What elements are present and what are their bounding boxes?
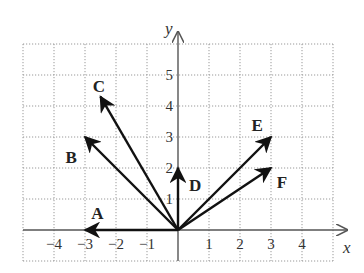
vector-label-a: A <box>91 204 104 223</box>
x-tick-label: −3 <box>77 236 93 252</box>
x-tick-label: 1 <box>205 236 213 252</box>
vector-label-b: B <box>65 148 76 167</box>
y-tick-label: 4 <box>166 98 174 114</box>
x-axis-label: x <box>342 238 351 257</box>
x-tick-label: 4 <box>298 236 306 252</box>
x-tick-label: −2 <box>108 236 124 252</box>
x-tick-label: −4 <box>46 236 62 252</box>
y-axis-label: y <box>163 19 173 38</box>
vector-label-f: F <box>277 173 287 192</box>
vector-diagram: xy −4−3−2−1123412345 ABCDEF x y <box>0 0 364 273</box>
y-tick-label: 3 <box>166 129 174 145</box>
y-tick-label: 5 <box>166 67 174 83</box>
vectors: ABCDEF <box>65 77 287 230</box>
x-tick-label: −1 <box>139 236 155 252</box>
y-tick-label: 2 <box>166 160 174 176</box>
coordinate-plane: xy −4−3−2−1123412345 ABCDEF <box>0 0 364 273</box>
vector-label-d: D <box>189 176 201 195</box>
x-tick-label: 2 <box>236 236 244 252</box>
y-tick-label: 1 <box>166 191 174 207</box>
x-tick-label: 3 <box>267 236 275 252</box>
vector-label-c: C <box>93 77 105 96</box>
vector-label-e: E <box>251 116 262 135</box>
